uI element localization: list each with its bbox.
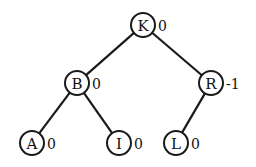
tree-node-i: I0 — [107, 131, 143, 155]
tree-nodes: K0B0R-1A0I0L0 — [20, 13, 240, 155]
balance-factor-label: 0 — [47, 136, 56, 152]
node-label: B — [71, 75, 82, 93]
node-label: K — [137, 17, 149, 35]
tree-node-l: L0 — [164, 131, 200, 155]
balance-factor-label: 0 — [191, 136, 200, 152]
balance-factor-label: 0 — [158, 18, 167, 34]
balance-factor-label: 0 — [134, 136, 143, 152]
avl-tree-diagram: K0B0R-1A0I0L0 — [0, 0, 256, 167]
edge-b-a — [39, 93, 70, 134]
node-label: R — [205, 75, 217, 93]
edge-k-b — [86, 33, 134, 75]
edge-b-i — [84, 93, 112, 133]
balance-factor-label: 0 — [92, 76, 101, 92]
edge-k-r — [152, 33, 202, 75]
node-label: I — [116, 135, 122, 153]
tree-node-b: B0 — [65, 71, 101, 95]
tree-node-r: R-1 — [199, 71, 240, 95]
balance-factor-label: -1 — [226, 76, 240, 92]
node-label: A — [26, 135, 38, 153]
edge-r-l — [182, 93, 205, 132]
tree-node-k: K0 — [131, 13, 167, 37]
node-label: L — [171, 135, 181, 153]
tree-node-a: A0 — [20, 131, 56, 155]
